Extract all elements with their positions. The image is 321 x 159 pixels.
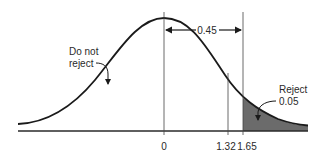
do-not-reject-label-line2: reject — [69, 58, 94, 69]
tick-label-1-65: 1.65 — [237, 141, 257, 152]
do-not-reject-label-line1: Do not — [69, 46, 99, 57]
normal-curve — [18, 18, 308, 126]
hypothesis-test-diagram: 0.45 Do not reject Reject 0.05 0 1.32 1.… — [0, 0, 321, 159]
tick-label-1-32: 1.32 — [216, 141, 236, 152]
tick-label-0: 0 — [161, 141, 167, 152]
reject-label-line2: 0.05 — [279, 96, 299, 107]
span-label: 0.45 — [197, 25, 217, 36]
reject-label-line1: Reject — [279, 84, 308, 95]
